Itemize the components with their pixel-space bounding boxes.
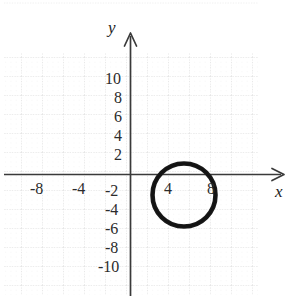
y-tick-label-10: 10	[105, 71, 121, 87]
x-axis-label: x	[275, 183, 283, 200]
y-tick-label-6: 6	[114, 109, 122, 125]
y-tick-label-8: 8	[114, 90, 122, 106]
y-tick-label-neg6: -6	[105, 221, 118, 237]
y-tick-label-neg8: -8	[105, 240, 118, 256]
y-axis-label: y	[108, 19, 116, 36]
x-tick-label-neg4: -4	[72, 181, 85, 197]
graph-figure: y x 10 8 6 4 2 -2 -4 -6 -8 -10 -8 -4 4 8	[0, 0, 294, 298]
y-tick-label-4: 4	[114, 128, 122, 144]
y-tick-label-neg2: -2	[105, 183, 118, 199]
x-tick-label-8: 8	[207, 181, 215, 197]
y-tick-label-neg4: -4	[105, 202, 118, 218]
y-tick-label-2: 2	[114, 147, 122, 163]
x-tick-label-neg8: -8	[30, 181, 43, 197]
x-tick-label-4: 4	[164, 181, 172, 197]
y-tick-label-neg10: -10	[98, 259, 119, 275]
coordinate-plane	[0, 0, 294, 298]
